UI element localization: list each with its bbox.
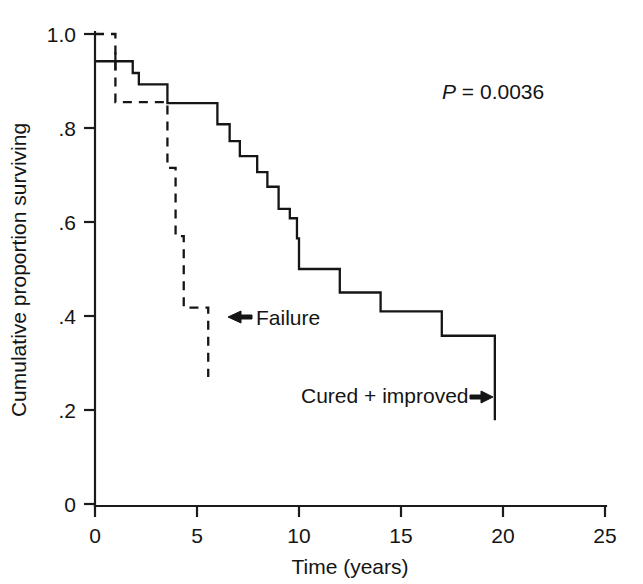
x-tick-label-5: 5 [191, 524, 203, 547]
cured-improved-label-text: Cured + improved [301, 384, 469, 407]
survival-curve-figure: 1.0 .8 .6 .4 .2 0 0 5 10 15 20 25 Time (… [0, 0, 643, 584]
x-tick-label-20: 20 [491, 524, 514, 547]
kaplan-meier-plot: 1.0 .8 .6 .4 .2 0 0 5 10 15 20 25 Time (… [0, 0, 643, 584]
p-value-number: = 0.0036 [456, 80, 544, 103]
y-axis-ticks [84, 34, 95, 504]
arrow-left-icon [228, 311, 252, 323]
cured-improved-survival-curve [95, 61, 495, 420]
y-tick-label-0-6: .6 [58, 211, 76, 234]
y-tick-label-0-4: .4 [58, 305, 76, 328]
y-tick-label-1-0: 1.0 [47, 23, 76, 46]
y-tick-label-0: 0 [64, 493, 76, 516]
p-value-annotation: P = 0.0036 [442, 80, 544, 103]
x-tick-label-10: 10 [287, 524, 310, 547]
y-tick-label-0-2: .2 [58, 399, 76, 422]
x-axis-ticks [95, 506, 605, 517]
y-tick-label-0-8: .8 [58, 117, 76, 140]
x-tick-label-25: 25 [593, 524, 616, 547]
p-value-symbol: P [442, 80, 456, 103]
cured-improved-annotation: Cured + improved [301, 384, 493, 407]
failure-annotation: Failure [228, 306, 320, 329]
failure-survival-curve [95, 34, 208, 377]
y-axis-title: Cumulative proportion surviving [7, 123, 30, 417]
x-tick-label-15: 15 [389, 524, 412, 547]
arrow-right-icon [470, 391, 493, 403]
x-axis-title: Time (years) [291, 555, 408, 578]
x-tick-label-0: 0 [89, 524, 101, 547]
failure-label-text: Failure [256, 306, 320, 329]
